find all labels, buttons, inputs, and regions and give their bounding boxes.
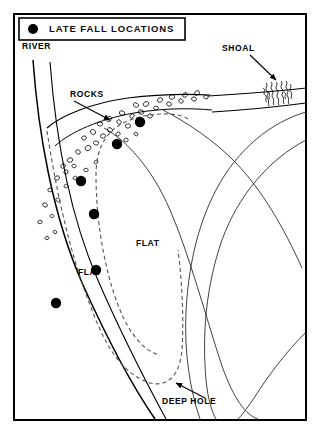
label-river: RIVER bbox=[22, 41, 51, 51]
location-dot bbox=[89, 209, 99, 219]
location-dot bbox=[51, 298, 61, 308]
location-dot bbox=[135, 117, 145, 127]
legend-title: LATE FALL LOCATIONS bbox=[49, 23, 174, 34]
legend: LATE FALL LOCATIONS bbox=[19, 18, 185, 40]
label-shoal: SHOAL bbox=[222, 43, 255, 53]
location-dot bbox=[112, 139, 122, 149]
label-rocks: ROCKS bbox=[70, 89, 104, 99]
label-flat-outer: FLAT bbox=[136, 238, 160, 248]
page-background bbox=[0, 0, 320, 434]
location-dot bbox=[91, 265, 101, 275]
filled-circle-marker-icon bbox=[28, 24, 38, 34]
label-deep-hole: DEEP HOLE bbox=[162, 396, 216, 406]
location-dot bbox=[76, 176, 86, 186]
map-canvas: RIVER ROCKS SHOAL FLAT FLAT DEEP HOLE LA… bbox=[0, 0, 320, 434]
fishing-location-map: RIVER ROCKS SHOAL FLAT FLAT DEEP HOLE LA… bbox=[0, 0, 320, 434]
